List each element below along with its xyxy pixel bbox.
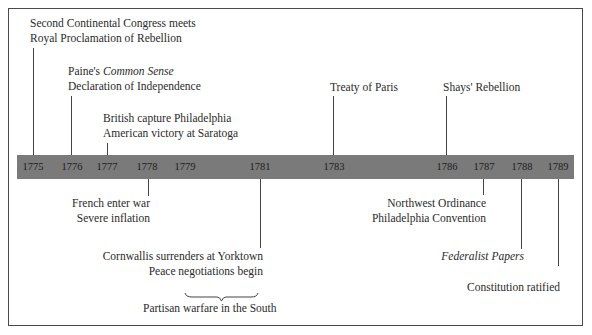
year-1787: 1787 bbox=[474, 160, 495, 174]
event-text: Philadelphia Convention bbox=[372, 211, 486, 226]
event-1775: Second Continental Congress meets Royal … bbox=[30, 16, 196, 46]
year-1786: 1786 bbox=[437, 160, 458, 174]
year-1779: 1779 bbox=[175, 160, 196, 174]
event-text: Federalist Papers bbox=[441, 250, 524, 262]
year-1775: 1775 bbox=[23, 160, 44, 174]
year-1777: 1777 bbox=[97, 160, 118, 174]
connector-line-1776 bbox=[71, 96, 72, 155]
span-label: Partisan warfare in the South bbox=[143, 301, 277, 316]
connector-line-1789 bbox=[558, 179, 559, 266]
connector-line-1788 bbox=[521, 179, 522, 249]
book-title: Common Sense bbox=[103, 65, 174, 77]
event-text: Severe inflation bbox=[72, 211, 150, 226]
event-1777: British capture Philadelphia American vi… bbox=[103, 111, 238, 141]
year-1788: 1788 bbox=[512, 160, 533, 174]
event-text: Paine's Common Sense bbox=[68, 64, 201, 79]
connector-line-1778 bbox=[148, 179, 149, 196]
connector-line-1787 bbox=[483, 179, 484, 195]
event-text: French enter war bbox=[72, 196, 150, 211]
year-1781: 1781 bbox=[250, 160, 271, 174]
year-1789: 1789 bbox=[548, 160, 569, 174]
year-1776: 1776 bbox=[62, 160, 83, 174]
year-1778: 1778 bbox=[137, 160, 158, 174]
event-1781: Cornwallis surrenders at Yorktown Peace … bbox=[103, 249, 263, 279]
event-1786: Shays' Rebellion bbox=[443, 80, 520, 95]
event-text: Peace negotiations begin bbox=[103, 264, 263, 279]
event-text: British capture Philadelphia bbox=[103, 111, 238, 126]
event-text: American victory at Saratoga bbox=[103, 126, 238, 141]
event-text: Cornwallis surrenders at Yorktown bbox=[103, 249, 263, 264]
connector-line-1777 bbox=[107, 143, 108, 155]
connector-line-1781 bbox=[260, 179, 261, 248]
event-text: Shays' Rebellion bbox=[443, 80, 520, 95]
event-text: Declaration of Independence bbox=[68, 79, 201, 94]
connector-line-1775 bbox=[33, 48, 34, 155]
event-text: Treaty of Paris bbox=[330, 80, 398, 95]
connector-line-1783 bbox=[333, 96, 334, 155]
event-1783: Treaty of Paris bbox=[330, 80, 398, 95]
year-1783: 1783 bbox=[324, 160, 345, 174]
connector-line-1786 bbox=[446, 96, 447, 155]
event-text: Royal Proclamation of Rebellion bbox=[30, 31, 196, 46]
event-1788: Federalist Papers bbox=[441, 249, 524, 264]
event-text: Constitution ratified bbox=[467, 280, 560, 295]
event-1776: Paine's Common Sense Declaration of Inde… bbox=[68, 64, 201, 94]
event-text: Northwest Ordinance bbox=[372, 196, 486, 211]
event-text: Second Continental Congress meets bbox=[30, 16, 196, 31]
event-1789: Constitution ratified bbox=[467, 280, 560, 295]
event-1778: French enter war Severe inflation bbox=[72, 196, 150, 226]
event-1787: Northwest Ordinance Philadelphia Convent… bbox=[372, 196, 486, 226]
